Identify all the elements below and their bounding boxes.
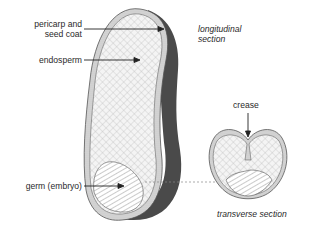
pericarp-label-line2: seed coat: [14, 29, 82, 39]
longitudinal-label-line2: section: [198, 34, 225, 44]
endosperm-label: endosperm: [14, 55, 82, 65]
germ-label: germ (embryo): [4, 181, 82, 191]
longitudinal-label-line1: longitudinal: [198, 24, 241, 34]
transverse-label: transverse section: [217, 209, 287, 219]
crease-arrowhead: [246, 131, 251, 137]
pericarp-label-line1: pericarp and: [14, 19, 82, 29]
crease-label: crease: [233, 100, 259, 110]
